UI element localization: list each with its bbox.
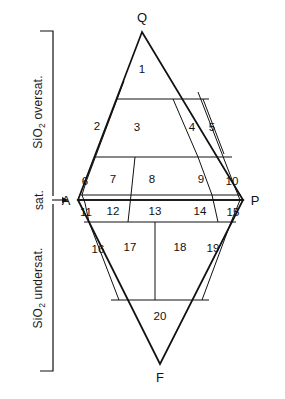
- sat-axis-label: sat.: [32, 190, 46, 210]
- field-label-5: 5: [209, 121, 215, 133]
- oversaturation-axis-group: SiO2 oversat.: [31, 31, 53, 196]
- upper-divider-12-13: [128, 195, 131, 222]
- field-label-14: 14: [194, 205, 207, 217]
- field-label-10: 10: [226, 175, 239, 187]
- field-label-13: 13: [149, 205, 162, 217]
- field-label-12: 12: [107, 205, 120, 217]
- field-label-19: 19: [207, 242, 220, 254]
- field-label-17: 17: [124, 241, 137, 253]
- upper-triangle-outline: [78, 32, 243, 200]
- lower-right-margin-strip-line: [202, 222, 231, 300]
- undersat-label-tail: undersat.: [31, 248, 45, 303]
- field-label-20: 20: [154, 310, 167, 322]
- lower-left-margin-strip-line: [89, 222, 119, 300]
- field-label-18: 18: [174, 241, 187, 253]
- vertex-labels-group: Q A P F: [62, 10, 260, 385]
- field-label-16: 16: [92, 243, 105, 255]
- upper-divider-7-8: [131, 157, 135, 195]
- vertex-label-A: A: [62, 193, 71, 208]
- qapf-diagram-svg: SiO2 oversat. sat. SiO2 undersat.: [0, 0, 285, 399]
- undersaturation-axis-group: SiO2 undersat.: [31, 204, 53, 371]
- field-label-7: 7: [110, 173, 116, 185]
- oversat-axis-label: SiO2 oversat.: [31, 75, 47, 148]
- figure-canvas: SiO2 oversat. sat. SiO2 undersat.: [0, 0, 285, 399]
- vertex-label-Q: Q: [137, 10, 147, 25]
- lower-triangle-subdivisions: [89, 222, 231, 300]
- left-margin-strip-line: [82, 81, 124, 195]
- upper-divider-13-14: [212, 195, 218, 222]
- oversat-label-tail: oversat.: [31, 75, 45, 123]
- vertex-label-F: F: [156, 370, 164, 385]
- field-label-3: 3: [134, 121, 140, 133]
- field-label-9: 9: [198, 173, 204, 185]
- undersat-axis-label: SiO2 undersat.: [31, 248, 47, 329]
- vertex-label-P: P: [251, 193, 260, 208]
- undersat-label-main: SiO: [31, 308, 45, 329]
- field-label-6: 6: [82, 175, 88, 187]
- field-label-11: 11: [80, 206, 92, 218]
- oversat-label-main: SiO: [31, 128, 45, 149]
- field-labels-group: 1 2 3 4 5 6 7 8 9 10 11 12 13 14 15 16 1…: [80, 63, 239, 322]
- lower-triangle-outline: [78, 200, 243, 364]
- field-label-4: 4: [189, 121, 196, 133]
- field-label-1: 1: [139, 63, 145, 75]
- field-label-2: 2: [94, 120, 100, 132]
- field-label-8: 8: [149, 173, 155, 185]
- field-label-15: 15: [227, 206, 240, 218]
